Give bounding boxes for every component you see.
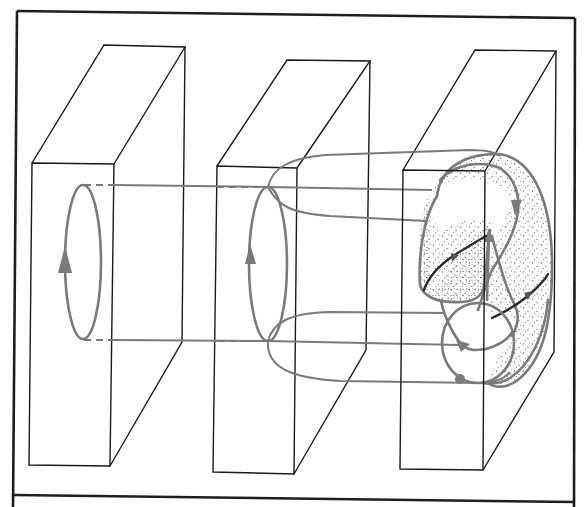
left-loop: [58, 185, 101, 339]
middle-loop: [245, 187, 287, 341]
right-lower-circle: [441, 301, 514, 384]
diagram-canvas: [0, 0, 584, 507]
arrowhead-icon: [58, 246, 72, 273]
stippled-attractor-surface: [419, 153, 553, 386]
arrowhead-icon: [245, 244, 256, 264]
middle-slab: [213, 60, 370, 474]
left-slab: [29, 45, 185, 466]
arrowhead-icon: [456, 340, 470, 352]
right-slab: [400, 170, 485, 470]
dot-icon: [455, 374, 465, 384]
